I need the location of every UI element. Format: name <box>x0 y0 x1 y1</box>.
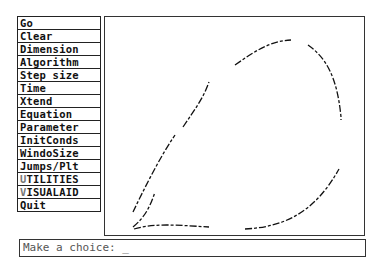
menu-item-clear[interactable]: Clear <box>17 30 101 43</box>
menu-item-xtend[interactable]: Xtend <box>17 95 101 108</box>
command-prompt[interactable]: Make a choice: _ <box>19 239 366 257</box>
menu-item-go[interactable]: Go <box>17 16 101 30</box>
menu-item-algorithm[interactable]: Algorithm <box>17 56 101 69</box>
menu-item-step-size[interactable]: Step size <box>17 69 101 82</box>
menu-item-initconds[interactable]: InitConds <box>17 134 101 147</box>
menu-item-windosize[interactable]: WindoSize <box>17 147 101 160</box>
menu-item-time[interactable]: Time <box>17 82 101 95</box>
trajectory-curve <box>105 17 366 237</box>
menu-item-quit[interactable]: Quit <box>17 199 101 212</box>
main-menu: Go Clear Dimension Algorithm Step size T… <box>17 16 101 212</box>
menu-item-parameter[interactable]: Parameter <box>17 121 101 134</box>
menu-label: TILITIES <box>27 173 79 185</box>
menu-item-equation[interactable]: Equation <box>17 108 101 121</box>
menu-label: ISUALAID <box>27 186 79 198</box>
menu-item-utilities[interactable]: UTILITIES <box>17 173 101 186</box>
plot-window <box>104 16 365 236</box>
menu-item-visualaid[interactable]: VISUALAID <box>17 186 101 199</box>
menu-item-dimension[interactable]: Dimension <box>17 43 101 56</box>
menu-item-jumps-plt[interactable]: Jumps/Plt <box>17 160 101 173</box>
